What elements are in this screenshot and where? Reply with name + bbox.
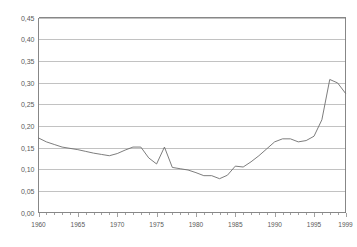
data-line-series-1 [39, 79, 346, 178]
gridlines [39, 19, 346, 192]
x-axis-tick-label: 1970 [110, 221, 125, 228]
y-axis-tick-label: 0,15 [21, 145, 35, 152]
x-axis-tick-label: 1960 [31, 221, 46, 228]
y-axis-tick-label: 0,30 [21, 80, 35, 87]
y-axis-tick-labels: 0,450,400,350,300,250,200,150,100,050,00 [21, 15, 35, 217]
x-axis-tick-label: 1965 [71, 221, 86, 228]
y-axis-tick-label: 0,00 [21, 210, 35, 217]
axis-lines [39, 18, 346, 213]
data-series [39, 79, 346, 178]
y-axis-tick-label: 0,05 [21, 188, 35, 195]
x-axis-tick-label: 1995 [307, 221, 322, 228]
y-axis-tick-label: 0,25 [21, 101, 35, 108]
x-axis-tick-label: 1999 [338, 221, 353, 228]
y-axis-tick-label: 0,35 [21, 58, 35, 65]
x-axis-tick-labels: 196019651970197519801985199019951999 [31, 221, 353, 228]
x-axis-tick-label: 1980 [189, 221, 204, 228]
y-axis-tick-label: 0,20 [21, 123, 35, 130]
x-axis-tick-marks [40, 213, 347, 217]
x-axis-tick-label: 1985 [228, 221, 243, 228]
y-axis-tick-label: 0,10 [21, 166, 35, 173]
y-axis-tick-label: 0,45 [21, 15, 35, 22]
line-chart: 0,450,400,350,300,250,200,150,100,050,00… [0, 0, 357, 247]
chart-canvas: 0,450,400,350,300,250,200,150,100,050,00… [0, 0, 357, 247]
x-axis-tick-label: 1990 [267, 221, 282, 228]
y-axis-tick-label: 0,40 [21, 36, 35, 43]
x-axis-tick-label: 1975 [149, 221, 164, 228]
